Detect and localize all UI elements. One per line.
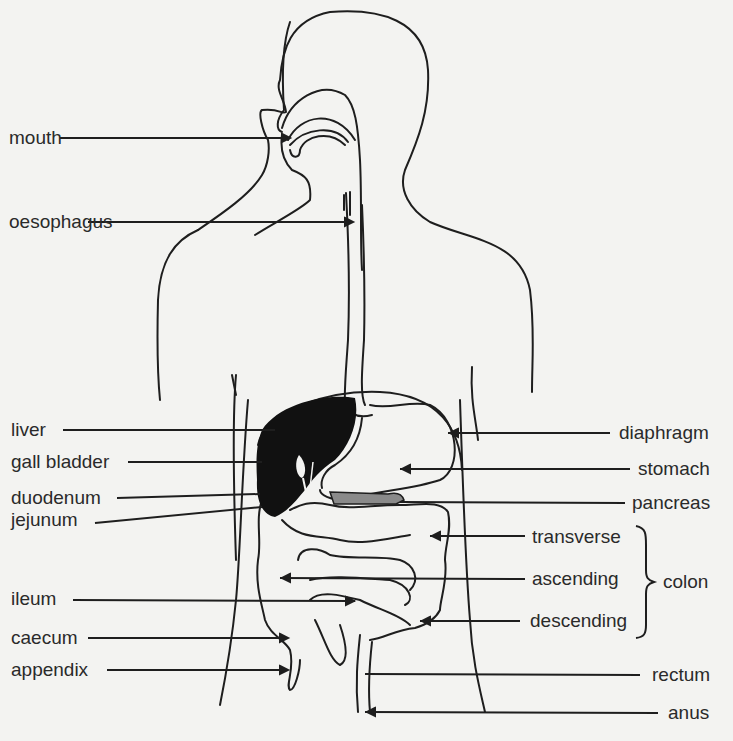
- label-appendix: appendix: [11, 660, 88, 680]
- body-outline: [198, 11, 533, 392]
- oesophagus-tube: [345, 193, 372, 416]
- label-colon: colon: [663, 572, 708, 592]
- label-caecum: caecum: [11, 628, 78, 648]
- label-ileum: ileum: [11, 589, 56, 609]
- colon-brace: [636, 526, 654, 638]
- label-mouth: mouth: [9, 128, 62, 148]
- label-stomach: stomach: [638, 459, 710, 479]
- label-diaphragm: diaphragm: [619, 423, 709, 443]
- label-oesophagus: oesophagus: [9, 212, 113, 232]
- label-duodenum: duodenum: [11, 488, 101, 508]
- label-liver: liver: [11, 420, 46, 440]
- label-descending: descending: [530, 611, 627, 631]
- label-jejunum: jejunum: [11, 510, 78, 530]
- label-gall-bladder: gall bladder: [11, 452, 109, 472]
- pancreas-shape: [330, 492, 404, 504]
- label-ascending: ascending: [532, 569, 619, 589]
- label-transverse: transverse: [532, 527, 621, 547]
- label-rectum: rectum: [652, 665, 710, 685]
- label-pancreas: pancreas: [632, 493, 710, 513]
- label-anus: anus: [668, 703, 709, 723]
